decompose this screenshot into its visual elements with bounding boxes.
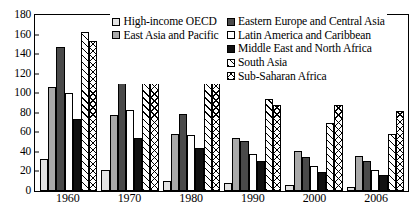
- bar: [310, 166, 318, 191]
- bar: [396, 111, 404, 191]
- y-axis-tick-label: 20: [20, 166, 31, 178]
- bar: [326, 123, 334, 191]
- bar: [171, 134, 179, 191]
- legend-item-label: East Asia and Pacific: [124, 29, 219, 42]
- legend-swatch-icon: [227, 72, 235, 80]
- bar: [302, 157, 310, 191]
- legend-item[interactable]: East Asia and Pacific: [112, 29, 219, 42]
- bar: [257, 161, 265, 191]
- legend-item-label: South Asia: [238, 56, 287, 69]
- bar: [334, 105, 342, 191]
- x-axis-label: 2000: [303, 192, 327, 212]
- bar: [101, 170, 109, 191]
- x-axis-label: 2006: [364, 192, 388, 212]
- bar: [187, 135, 195, 191]
- bar: [232, 138, 240, 191]
- bar: [48, 87, 56, 191]
- bar: [134, 138, 142, 191]
- x-axis-label: 1980: [179, 192, 203, 212]
- x-axis-label: 1990: [241, 192, 265, 212]
- bar: [355, 156, 363, 191]
- legend-item[interactable]: High-income OECD: [112, 15, 219, 28]
- x-axis-labels: 196019701980199020002006: [34, 192, 409, 212]
- legend-column-right: Eastern Europe and Central AsiaLatin Ame…: [227, 15, 385, 83]
- bar: [294, 151, 302, 191]
- legend-swatch-icon: [227, 59, 235, 67]
- bar: [73, 119, 81, 191]
- x-axis-label: 1970: [118, 192, 142, 212]
- legend-swatch-icon: [112, 31, 120, 39]
- legend-item[interactable]: South Asia: [227, 56, 385, 69]
- bar: [118, 77, 126, 191]
- y-axis-tick-label: 140: [14, 48, 31, 60]
- bar: [224, 183, 232, 191]
- y-axis-tick-label: 100: [14, 87, 31, 99]
- bar: [163, 181, 171, 191]
- bar: [126, 110, 134, 191]
- y-axis-tick-label: 40: [20, 146, 31, 158]
- bar: [195, 148, 203, 191]
- bar: [212, 81, 220, 191]
- legend-item-label: Eastern Europe and Central Asia: [238, 15, 385, 28]
- bar: [204, 75, 212, 191]
- legend-item[interactable]: Latin America and Caribbean: [227, 29, 385, 42]
- bar: [110, 115, 118, 191]
- bar: [371, 170, 379, 191]
- legend-swatch-icon: [112, 18, 120, 26]
- bar: [318, 172, 326, 191]
- x-axis-label: 1960: [56, 192, 80, 212]
- bar: [379, 175, 387, 191]
- legend-item[interactable]: Sub-Saharan Africa: [227, 70, 385, 83]
- bar: [265, 99, 273, 191]
- legend-item[interactable]: Eastern Europe and Central Asia: [227, 15, 385, 28]
- y-axis-tick-label: 160: [14, 29, 31, 41]
- legend-item-label: Middle East and North Africa: [238, 42, 372, 55]
- legend-swatch-icon: [227, 31, 235, 39]
- bar-group: [40, 15, 97, 191]
- y-axis-tick-label: 80: [20, 107, 31, 119]
- bar: [347, 187, 355, 191]
- y-axis-tick-label: 120: [14, 68, 31, 80]
- legend-item-label: High-income OECD: [124, 15, 217, 28]
- bar: [240, 141, 248, 191]
- bar: [65, 93, 73, 191]
- bar: [81, 32, 89, 191]
- bar: [388, 134, 396, 191]
- legend-column-left: High-income OECDEast Asia and Pacific: [112, 15, 219, 83]
- bar: [273, 105, 281, 191]
- legend-item-label: Sub-Saharan Africa: [238, 70, 326, 83]
- bar: [285, 185, 293, 191]
- bar: [249, 154, 257, 191]
- legend-item[interactable]: Middle East and North Africa: [227, 42, 385, 55]
- bar: [363, 161, 371, 191]
- legend-item-label: Latin America and Caribbean: [238, 29, 371, 42]
- bar: [89, 41, 97, 191]
- bar: [56, 47, 64, 191]
- bar: [40, 159, 48, 191]
- y-axis-tick-label: 60: [20, 127, 31, 139]
- legend-swatch-icon: [227, 45, 235, 53]
- y-axis-tick-label: 180: [14, 9, 31, 21]
- bar: [179, 114, 187, 191]
- y-axis-tick-label: 0: [25, 185, 31, 197]
- chart-legend: High-income OECDEast Asia and Pacific Ea…: [110, 14, 387, 84]
- legend-swatch-icon: [227, 18, 235, 26]
- bar-chart: 180160140120100806040200 196019701980199…: [0, 0, 417, 224]
